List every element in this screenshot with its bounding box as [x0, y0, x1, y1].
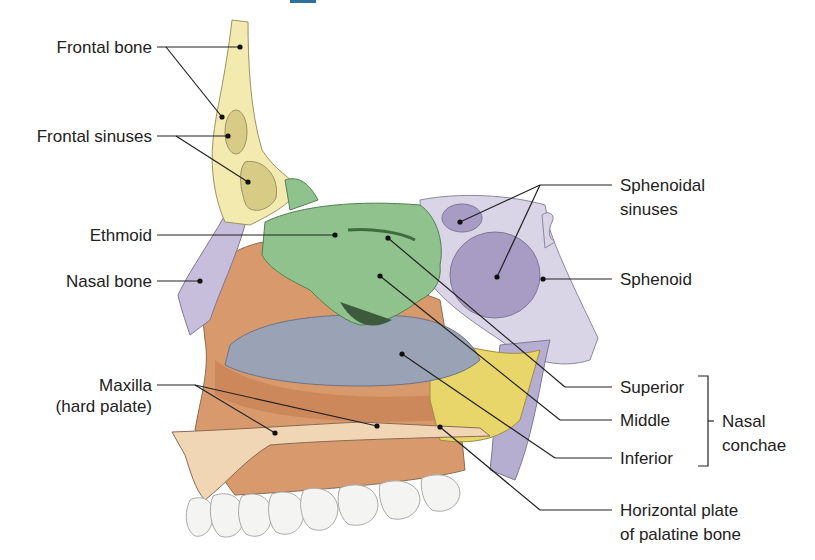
label-nasal-conchae: Nasal: [722, 411, 765, 432]
label-palatine-bone: of palatine bone: [620, 524, 741, 545]
label-superior-concha: Superior: [620, 377, 684, 398]
label-ethmoid: Ethmoid: [90, 225, 152, 246]
label-hard-palate: (hard palate): [56, 396, 152, 417]
sphenoidal-sinus-large: [450, 232, 540, 318]
label-maxilla: Maxilla: [99, 375, 152, 396]
label-sphenoid: Sphenoid: [620, 269, 692, 290]
label-nasal-bone: Nasal bone: [66, 271, 152, 292]
label-sphenoidal-sinuses-2: sinuses: [620, 199, 678, 220]
label-sphenoidal-sinuses: Sphenoidal: [620, 175, 705, 196]
label-middle-concha: Middle: [620, 410, 670, 431]
label-frontal-sinuses: Frontal sinuses: [37, 126, 152, 147]
label-horizontal-plate: Horizontal plate: [620, 500, 738, 521]
label-nasal-conchae-2: conchae: [722, 435, 786, 456]
label-inferior-concha: Inferior: [620, 448, 673, 469]
sphenoidal-sinus-small: [442, 204, 482, 232]
label-frontal-bone: Frontal bone: [57, 37, 152, 58]
frontal-sinus-upper: [225, 110, 247, 154]
